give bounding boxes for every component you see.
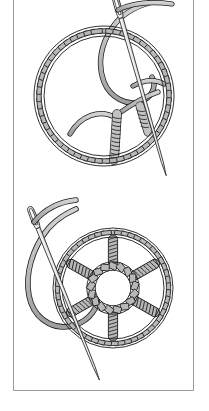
instruction-plate <box>0 0 209 411</box>
page-background <box>0 0 209 411</box>
diagram-canvas <box>0 0 209 411</box>
